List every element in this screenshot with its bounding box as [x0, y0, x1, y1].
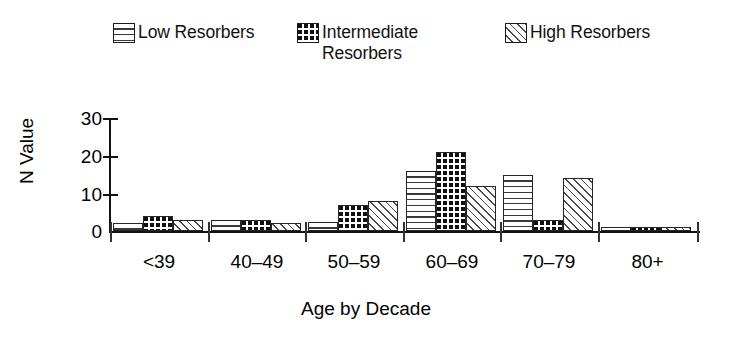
bar-high-resorbers-70-79	[563, 178, 593, 231]
bar-intermediate-resorbers-39	[143, 216, 173, 231]
bar-low-resorbers-70-79	[503, 175, 533, 232]
bar-high-resorbers-50-59	[368, 201, 398, 231]
bar-high-resorbers-40-49	[271, 223, 301, 231]
bar-high-resorbers-80	[661, 227, 691, 231]
x-tick-label-5: 80+	[598, 251, 697, 273]
x-tick-label-2: 50–59	[305, 251, 403, 273]
bar-low-resorbers-39	[113, 223, 143, 231]
x-tick-label-0: <39	[110, 251, 208, 273]
bar-low-resorbers-40-49	[211, 220, 241, 231]
bar-low-resorbers-50-59	[308, 222, 338, 231]
bar-intermediate-resorbers-60-69	[436, 152, 466, 231]
bars-layer	[0, 0, 732, 233]
x-tick-label-1: 40–49	[208, 251, 306, 273]
bar-intermediate-resorbers-80	[631, 227, 661, 231]
bar-high-resorbers-60-69	[466, 186, 496, 231]
bar-intermediate-resorbers-50-59	[338, 205, 368, 231]
x-tick-label-4: 70–79	[500, 251, 598, 273]
bar-low-resorbers-80	[601, 227, 631, 231]
bar-high-resorbers-39	[173, 220, 203, 231]
bar-low-resorbers-60-69	[406, 171, 436, 231]
x-tick-label-3: 60–69	[403, 251, 501, 273]
x-axis-title: Age by Decade	[0, 298, 732, 320]
bar-intermediate-resorbers-70-79	[533, 220, 563, 231]
bar-chart: N Value 30 20 10 0 <39 40–49 50–59 60–69…	[0, 0, 732, 341]
bar-intermediate-resorbers-40-49	[241, 220, 271, 231]
